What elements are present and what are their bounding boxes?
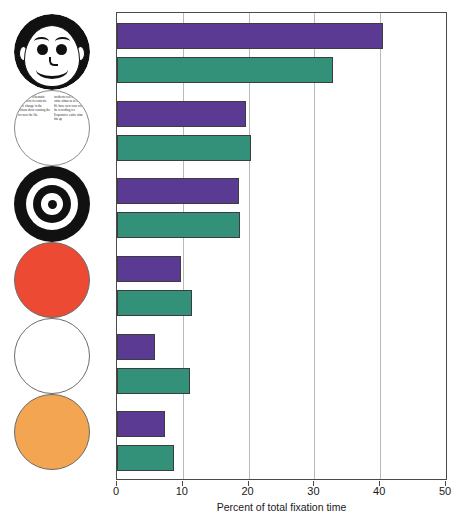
red-disc-stimulus (14, 242, 96, 318)
bar-red-disc-green (117, 290, 192, 316)
bar-bullseye-green (117, 212, 240, 238)
face-stimulus (14, 14, 96, 90)
bullseye-icon (14, 166, 90, 242)
plot-area (116, 12, 447, 480)
bar-face-purple (117, 23, 383, 49)
x-tick-label-10: 10 (176, 485, 188, 497)
bar-white-disc-green (117, 368, 190, 394)
white-disc-stimulus (14, 318, 96, 394)
x-tick-label-50: 50 (439, 485, 451, 497)
text-block-icon: g it of real schematic rangement in cont… (14, 90, 90, 166)
face-icon (14, 14, 90, 90)
orange-disc-stimulus (14, 394, 96, 470)
bar-text-green (117, 135, 251, 161)
bar-face-green (117, 57, 333, 83)
red-disc-icon (14, 242, 90, 318)
x-tick-label-0: 0 (113, 485, 119, 497)
face-eye-left (37, 44, 48, 55)
x-axis-title: Percent of total fixation time (116, 501, 447, 513)
text-stimulus: g it of real schematic rangement in cont… (14, 90, 96, 166)
bar-text-purple (117, 101, 246, 127)
bar-orange-disc-green (117, 445, 174, 471)
text-column-left: g it of real schematic rangement in cont… (18, 95, 51, 161)
x-tick-label-30: 30 (307, 485, 319, 497)
fixation-time-bar-chart: g it of real schematic rangement in cont… (0, 0, 468, 520)
bullseye-ring-3 (33, 185, 71, 223)
bullseye-center (48, 200, 57, 209)
bar-bullseye-purple (117, 178, 239, 204)
stimulus-column: g it of real schematic rangement in cont… (10, 14, 102, 472)
bullseye-stimulus (14, 166, 96, 242)
bullseye-ring-2 (26, 178, 78, 230)
bar-red-disc-purple (117, 256, 181, 282)
face-mouth (36, 60, 68, 79)
text-column-right: incidents real life the entire stimu as … (54, 95, 87, 161)
bar-white-disc-purple (117, 334, 155, 360)
orange-disc-icon (14, 394, 90, 470)
bullseye-ring-4 (41, 193, 63, 215)
white-disc-icon (14, 318, 90, 394)
x-tick-label-40: 40 (373, 485, 385, 497)
x-axis-ticks: 01020304050 (116, 481, 447, 495)
bar-orange-disc-purple (117, 411, 165, 437)
face-eye-right (56, 44, 67, 55)
x-tick-label-20: 20 (241, 485, 253, 497)
gridline-40 (380, 13, 381, 479)
